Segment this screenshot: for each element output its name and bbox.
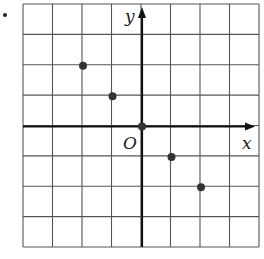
data-point bbox=[197, 183, 205, 191]
data-point bbox=[168, 153, 176, 161]
y-axis-label: y bbox=[124, 6, 135, 26]
x-axis-label: x bbox=[242, 133, 252, 153]
y-axis-arrow-icon bbox=[138, 7, 146, 18]
data-point bbox=[79, 62, 87, 70]
x-axis-arrow-icon bbox=[245, 123, 255, 131]
data-point bbox=[109, 92, 117, 100]
bullet-marker bbox=[3, 13, 7, 17]
origin-label: O bbox=[123, 133, 137, 153]
coordinate-plane: x y O bbox=[0, 0, 264, 259]
data-point bbox=[138, 123, 146, 131]
